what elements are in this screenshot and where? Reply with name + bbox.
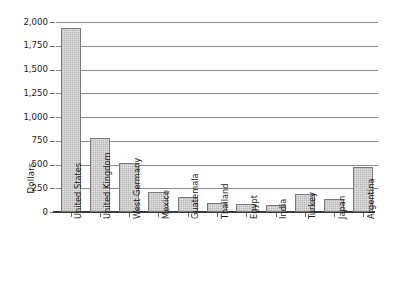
x-axis-tick-mark xyxy=(188,213,189,217)
y-axis-tick-mark xyxy=(50,165,55,166)
x-axis-tick-mark xyxy=(71,213,72,217)
y-axis-tick-label: 250 xyxy=(32,184,48,193)
y-axis-tick-labels: 2,0001,7501,5001,2501,0007505002500 xyxy=(0,0,48,297)
x-axis-tick-mark xyxy=(363,213,364,217)
x-axis-tick-mark xyxy=(305,213,306,217)
x-axis-tick-mark xyxy=(334,213,335,217)
x-axis-category-label: Mexico xyxy=(162,190,171,219)
x-axis-category-label: Japan xyxy=(338,196,347,219)
y-axis-tick-mark xyxy=(50,188,55,189)
x-axis-category-label: Turkey xyxy=(308,192,317,219)
x-axis-category-label: Argentina xyxy=(367,179,376,219)
y-axis-tick-label: 1,750 xyxy=(23,41,48,50)
y-axis-tick-label: 1,000 xyxy=(23,113,48,122)
y-axis-tick-mark xyxy=(50,117,55,118)
bar-chart: Dollars 2,0001,7501,5001,2501,0007505002… xyxy=(0,0,394,297)
y-axis-tick-mark xyxy=(50,141,55,142)
x-axis-category-label: United Kingdom xyxy=(103,152,112,219)
y-axis-tick-mark xyxy=(50,93,55,94)
y-axis-tick-label: 500 xyxy=(32,160,48,169)
x-axis-category-label: Guatemala xyxy=(191,173,200,219)
x-axis-tick-mark xyxy=(129,213,130,217)
x-axis-tick-mark xyxy=(246,213,247,217)
y-axis-tick-label: 1,250 xyxy=(23,89,48,98)
x-axis-tick-mark xyxy=(217,213,218,217)
y-axis-tick-mark xyxy=(50,70,55,71)
x-axis-tick-mark xyxy=(158,213,159,217)
x-axis-category-label: United States xyxy=(74,163,83,219)
y-axis-tick-label: 2,000 xyxy=(23,18,48,27)
y-axis-tick-label: 0 xyxy=(43,208,48,217)
x-axis-category-label: India xyxy=(279,199,288,219)
y-axis-tick-mark xyxy=(50,22,55,23)
y-axis-tick-mark xyxy=(50,46,55,47)
x-axis-tick-mark xyxy=(100,213,101,217)
x-axis-category-label: Egypt xyxy=(250,195,259,219)
x-axis-category-label: Thailand xyxy=(221,183,230,219)
x-axis-category-label: West Germany xyxy=(133,158,142,219)
y-axis-tick-label: 750 xyxy=(32,136,48,145)
y-axis-tick-label: 1,500 xyxy=(23,65,48,74)
x-axis-tick-mark xyxy=(276,213,277,217)
